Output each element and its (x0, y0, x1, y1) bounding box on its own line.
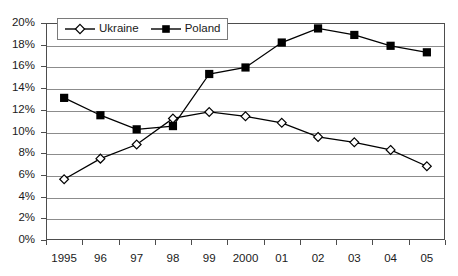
x-tick-label: 1995 (51, 253, 77, 265)
gridline (47, 133, 444, 134)
x-tick-mark (82, 240, 83, 245)
chart-legend: Ukraine Poland (57, 18, 228, 40)
x-tick-label: 02 (312, 253, 325, 265)
filled-square-marker-icon (151, 23, 181, 35)
x-tick-mark (300, 240, 301, 245)
y-tick-label: 4% (18, 191, 35, 203)
y-tick-label: 16% (12, 61, 35, 73)
open-diamond-marker-icon (65, 23, 95, 35)
x-tick-label: 97 (130, 253, 143, 265)
y-tick-label: 8% (18, 147, 35, 159)
gridline (47, 219, 444, 220)
gridline (47, 89, 444, 90)
x-tick-label: 05 (420, 253, 433, 265)
x-tick-label: 04 (384, 253, 397, 265)
x-tick-mark (119, 240, 120, 245)
y-tick-label: 18% (12, 39, 35, 51)
legend-entry-ukraine: Ukraine (65, 23, 139, 35)
gridline (47, 176, 444, 177)
y-tick-label: 12% (12, 104, 35, 116)
x-tick-mark (372, 240, 373, 245)
x-tick-mark (227, 240, 228, 245)
line-chart: 0%2%4%6%8%10%12%14%16%18%20% 19959697989… (0, 0, 458, 276)
y-tick-label: 14% (12, 82, 35, 94)
x-tick-mark (155, 240, 156, 245)
x-tick-label: 01 (275, 253, 288, 265)
x-tick-mark (191, 240, 192, 245)
x-tick-label: 03 (348, 253, 361, 265)
x-tick-label: 96 (94, 253, 107, 265)
legend-entry-poland: Poland (151, 23, 221, 35)
y-tick-label: 0% (18, 234, 35, 246)
y-tick-label: 20% (12, 17, 35, 29)
x-tick-label: 2000 (233, 253, 259, 265)
gridline (47, 67, 444, 68)
y-tick-label: 2% (18, 213, 35, 225)
x-tick-mark (336, 240, 337, 245)
gridline (47, 46, 444, 47)
x-axis: 19959697989920000102030405 (0, 246, 458, 268)
plot-area (46, 23, 445, 240)
legend-label-ukraine: Ukraine (99, 23, 139, 35)
gridline (47, 154, 444, 155)
x-tick-mark (445, 240, 446, 245)
y-axis: 0%2%4%6%8%10%12%14%16%18%20% (0, 0, 42, 276)
x-tick-label: 99 (203, 253, 216, 265)
legend-label-poland: Poland (185, 23, 221, 35)
x-tick-mark (46, 240, 47, 245)
gridline (47, 111, 444, 112)
x-tick-label: 98 (167, 253, 180, 265)
y-tick-label: 6% (18, 169, 35, 181)
x-tick-mark (264, 240, 265, 245)
y-tick-label: 10% (12, 126, 35, 138)
x-tick-mark (409, 240, 410, 245)
gridline (47, 198, 444, 199)
